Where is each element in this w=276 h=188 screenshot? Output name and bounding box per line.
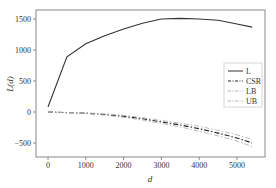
x-tick-label: 2000 xyxy=(116,161,132,170)
line-chart: 010002000300040005000 −500050010001500 d… xyxy=(0,0,276,188)
x-axis-label: d xyxy=(148,174,153,184)
chart-svg: 010002000300040005000 −500050010001500 d… xyxy=(0,0,276,188)
x-tick-label: 1000 xyxy=(78,161,94,170)
legend-label-l: L xyxy=(246,67,251,76)
x-tick-label: 4000 xyxy=(191,161,207,170)
legend: LCSRLBUB xyxy=(224,63,262,107)
y-tick-label: 500 xyxy=(19,77,31,86)
legend-label-csr: CSR xyxy=(246,77,262,86)
legend-label-ub: UB xyxy=(246,97,257,106)
y-axis-label: L(d) xyxy=(5,76,15,93)
y-tick-label: 0 xyxy=(27,108,31,117)
y-tick-label: 1500 xyxy=(15,15,31,24)
x-tick-label: 5000 xyxy=(229,161,245,170)
y-tick-label: 1000 xyxy=(15,46,31,55)
legend-label-lb: LB xyxy=(246,87,256,96)
x-axis-ticks: 010002000300040005000 xyxy=(46,157,245,170)
x-tick-label: 0 xyxy=(46,161,50,170)
y-axis-ticks: −500050010001500 xyxy=(14,15,36,148)
x-tick-label: 3000 xyxy=(153,161,169,170)
y-tick-label: −500 xyxy=(14,139,31,148)
